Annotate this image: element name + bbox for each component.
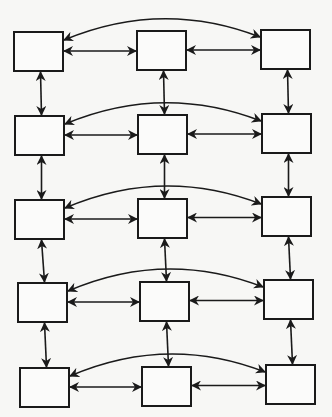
node-rect xyxy=(262,197,311,236)
node-box-r5c2 xyxy=(142,367,191,406)
node-rect xyxy=(137,31,186,70)
double-arrow-r1c3-r2c3 xyxy=(288,70,289,113)
node-rect xyxy=(138,199,187,238)
node-box-r4c3 xyxy=(264,280,313,319)
node-box-r1c1 xyxy=(14,32,63,71)
double-arrow-r3c2-r4c2 xyxy=(165,239,167,281)
double-arrow-r1c2-r2c2 xyxy=(164,71,165,114)
node-rect xyxy=(138,115,187,154)
node-rect xyxy=(261,30,310,69)
double-arrow-r4c2-r5c2 xyxy=(167,322,169,366)
node-rect xyxy=(14,32,63,71)
node-box-r5c3 xyxy=(266,365,315,404)
node-rect xyxy=(15,116,64,155)
node-box-r2c1 xyxy=(15,116,64,155)
node-rect xyxy=(140,282,189,321)
node-rect xyxy=(266,365,315,404)
node-box-r1c3 xyxy=(261,30,310,69)
node-box-r4c1 xyxy=(18,283,67,322)
node-rect xyxy=(15,200,64,239)
double-arrow-r4c1-r5c1 xyxy=(45,323,47,367)
node-rect xyxy=(264,280,313,319)
node-box-r1c2 xyxy=(137,31,186,70)
grid-network-diagram xyxy=(0,0,332,417)
double-arrow-r3c3-r4c3 xyxy=(289,237,291,279)
node-box-r2c2 xyxy=(138,115,187,154)
node-box-r3c2 xyxy=(138,199,187,238)
node-box-r3c1 xyxy=(15,200,64,239)
double-arrow-r1c1-r2c1 xyxy=(41,72,42,115)
node-box-r2c3 xyxy=(262,114,311,153)
node-box-r3c3 xyxy=(262,197,311,236)
node-rect xyxy=(20,368,69,407)
node-box-r4c2 xyxy=(140,282,189,321)
node-box-r5c1 xyxy=(20,368,69,407)
double-arrow-r3c1-r4c1 xyxy=(42,240,45,282)
node-rect xyxy=(142,367,191,406)
node-rect xyxy=(18,283,67,322)
node-rect xyxy=(262,114,311,153)
double-arrow-r4c3-r5c3 xyxy=(291,320,293,364)
